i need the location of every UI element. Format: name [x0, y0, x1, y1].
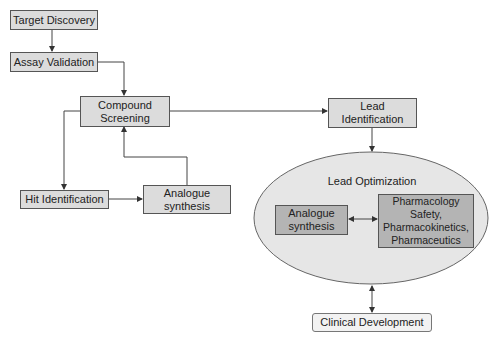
node-lo-pharmacology: Pharmacology Safety, Pharmacokinetics, P… — [378, 194, 474, 248]
connector-layer — [0, 0, 496, 339]
node-lo-analogue-synthesis: Analogue synthesis — [275, 205, 348, 235]
node-clinical-development: Clinical Development — [312, 313, 432, 332]
node-assay-validation: Assay Validation — [10, 52, 98, 72]
lead-optimization-label: Lead Optimization — [320, 175, 424, 187]
node-compound-screening: Compound Screening — [80, 96, 170, 127]
node-lead-identification: Lead Identification — [328, 98, 417, 128]
node-target-discovery: Target Discovery — [10, 10, 98, 30]
node-hit-identification: Hit Identification — [20, 190, 109, 209]
node-analogue-synthesis: Analogue synthesis — [143, 185, 231, 214]
